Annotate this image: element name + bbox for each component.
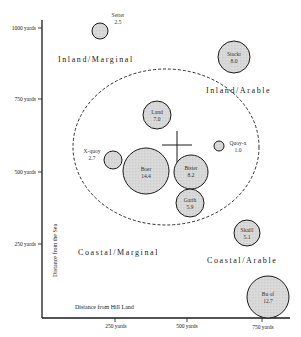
site-name: Skaill <box>241 227 254 233</box>
site-land: Land 7.0 <box>143 101 171 129</box>
site-value: 2.7 <box>89 155 96 161</box>
site-value: 2.5 <box>115 19 122 25</box>
site-boer: Boer 14.4 <box>123 148 169 194</box>
zone-coastal-marginal: Coastal/Marginal <box>78 248 159 257</box>
site-bu-of: Bu of 12.7 <box>247 276 289 318</box>
y-tick-label-250: 250 yards <box>14 241 36 247</box>
y-tick-label-1000: 1000 yards <box>12 25 36 31</box>
site-garth: Garth 5.9 <box>176 189 204 217</box>
zone-inland-arable: Inland/Arable <box>206 86 271 95</box>
site-name: X-quoy <box>84 148 101 154</box>
site-name: Boer <box>141 166 152 172</box>
site-value: 1.0 <box>235 147 242 153</box>
site-name: Land <box>151 109 163 115</box>
settlement-diagram: 1000 yards 750 yards 500 yards 250 yards… <box>0 0 301 337</box>
site-name: Stackr <box>227 51 241 57</box>
site-value: 8.0 <box>231 58 238 64</box>
site-circle <box>214 141 224 151</box>
zone-coastal-arable: Coastal/Arable <box>207 256 277 265</box>
y-tick-label-750: 750 yards <box>14 96 36 102</box>
x-tick-label-750: 750 yards <box>252 324 274 330</box>
site-setter: Setter 2.5 <box>92 12 125 39</box>
site-quoy-x: Quoy-x 1.0 <box>214 140 247 153</box>
site-bister: Bister 8.2 <box>174 155 208 189</box>
site-name: Setter <box>112 12 125 18</box>
zone-inland-marginal: Inland/Marginal <box>58 55 134 64</box>
site-value: 7.0 <box>154 116 161 122</box>
y-tick-label-500: 500 yards <box>14 169 36 175</box>
site-circle <box>92 23 108 39</box>
x-axis-title: Distance from Hill Land <box>75 304 134 310</box>
y-axis-title: Distance from the Sea <box>52 224 58 277</box>
site-value: 12.7 <box>263 298 273 304</box>
site-value: 5.1 <box>244 234 251 240</box>
site-circle <box>176 189 204 217</box>
site-circle <box>247 276 289 318</box>
site-stackr: Stackr 8.0 <box>218 41 250 73</box>
x-tick-label-250: 250 yards <box>105 323 127 329</box>
site-name: Bu of <box>262 291 275 297</box>
site-name: Garth <box>184 197 197 203</box>
site-name: Quoy-x <box>230 140 247 146</box>
site-circle <box>104 151 122 169</box>
site-value: 5.9 <box>187 204 194 210</box>
site-name: Bister <box>184 165 197 171</box>
site-value: 14.4 <box>141 173 151 179</box>
site-circle <box>234 220 260 246</box>
x-tick-label-500: 500 yards <box>176 323 198 329</box>
site-skaill: Skaill 5.1 <box>234 220 260 246</box>
site-circle <box>218 41 250 73</box>
site-x-quoy: X-quoy 2.7 <box>84 148 122 169</box>
site-value: 8.2 <box>188 172 195 178</box>
site-circle <box>143 101 171 129</box>
